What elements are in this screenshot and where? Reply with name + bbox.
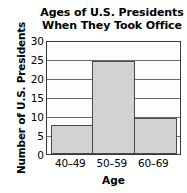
y-tick-25: 25 — [20, 55, 44, 65]
histogram-figure: Ages of U.S. Presidents When They Took O… — [0, 0, 187, 193]
bar-40–49 — [51, 125, 94, 154]
chart-title: Ages of U.S. Presidents When They Took O… — [40, 6, 184, 32]
y-tick-10: 10 — [20, 112, 44, 122]
bar-60–69 — [134, 118, 177, 155]
x-tick-60–69: 60–69 — [129, 157, 177, 169]
chart-title-line-2: When They Took Office — [40, 19, 184, 32]
y-tick-30: 30 — [20, 36, 44, 46]
y-tick-0: 0 — [20, 150, 44, 160]
plot-area — [46, 41, 181, 155]
bar-50–59 — [92, 61, 135, 155]
y-axis-tick-labels: 051015202530 — [20, 41, 44, 155]
y-tick-5: 5 — [20, 131, 44, 141]
y-tick-15: 15 — [20, 93, 44, 103]
y-tick-20: 20 — [20, 74, 44, 84]
bar-series — [47, 42, 180, 154]
chart-title-line-1: Ages of U.S. Presidents — [40, 6, 184, 19]
x-axis-tick-labels: 40–4950–5960–69 — [46, 157, 181, 173]
x-axis-label: Age — [46, 174, 181, 186]
